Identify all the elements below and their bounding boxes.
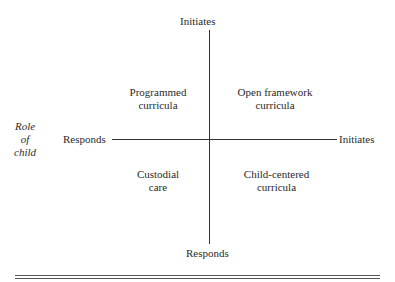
horizontal-axis-right-label: Initiates: [339, 133, 374, 146]
horizontal-axis: [112, 139, 337, 140]
bottom-rule: [15, 275, 380, 276]
quadrant-label-line: curricula: [234, 181, 319, 194]
quadrant-top-left: Programmed curricula: [118, 86, 198, 112]
horizontal-axis-left-label: Responds: [63, 133, 106, 146]
bottom-rule: [15, 278, 380, 279]
vertical-axis-top-label: Initiates: [180, 15, 215, 28]
axis-title-line: of: [10, 133, 40, 146]
quadrant-top-right: Open framework curricula: [225, 86, 325, 112]
quadrant-label-line: care: [118, 181, 198, 194]
axis-title-line: Role: [10, 120, 40, 133]
quadrant-bottom-left: Custodial care: [118, 168, 198, 194]
quadrant-label-line: curricula: [225, 99, 325, 112]
axis-title-line: child: [10, 146, 40, 159]
vertical-axis: [209, 30, 210, 244]
quadrant-label-line: Open framework: [225, 86, 325, 99]
quadrant-label-line: Custodial: [118, 168, 198, 181]
quadrant-label-line: Programmed: [118, 86, 198, 99]
quadrant-bottom-right: Child-centered curricula: [234, 168, 319, 194]
quadrant-label-line: curricula: [118, 99, 198, 112]
vertical-axis-bottom-label: Responds: [186, 247, 229, 260]
quadrant-label-line: Child-centered: [234, 168, 319, 181]
horizontal-axis-title: Role of child: [10, 120, 40, 159]
